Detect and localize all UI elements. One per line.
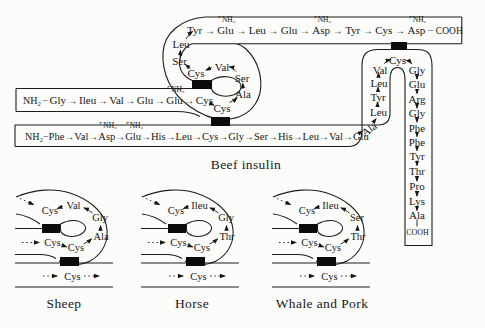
arrow-glyph: → xyxy=(205,24,215,37)
arrow-glyph: → xyxy=(88,130,98,143)
bond-glyph: − xyxy=(428,24,434,37)
residue-label: Ileu xyxy=(79,94,96,107)
residue-label: Gly xyxy=(409,64,426,76)
arrow-glyph: → xyxy=(155,94,165,107)
residue-label: Cys xyxy=(196,94,213,107)
residue-label: Cys xyxy=(389,54,406,66)
residue-label: Cys xyxy=(194,242,210,254)
arrow-glyph: → xyxy=(395,24,405,37)
arrow-glyph: → xyxy=(98,94,108,107)
residue-label: Val xyxy=(67,200,81,212)
residue-label: Ileu xyxy=(322,200,338,212)
insulin-sequence-diagram: Tyr → ⌜NH₂Glu → Leu → Glu → ⌜NH₂Asp → Ty… xyxy=(0,0,485,328)
arrow-glyph: → xyxy=(68,94,78,107)
residue-label: Thr xyxy=(219,231,234,243)
residue-label: Gly xyxy=(92,212,108,224)
disulfide-bond-a20-b19 xyxy=(391,42,407,50)
residue-label: Cys xyxy=(325,242,341,254)
sheep-disulfide-a7-b7 xyxy=(60,257,79,266)
arrow-glyph: → xyxy=(236,24,246,37)
residue-label: Cys xyxy=(187,67,204,79)
residue-label: Glu xyxy=(137,94,154,107)
residue-label: Gly xyxy=(218,212,234,224)
residue-label: ⌜NH₂Glu xyxy=(166,94,183,107)
whale-pork-disulfide-a7-b7 xyxy=(317,257,336,266)
residue-label: Gly xyxy=(50,94,67,107)
arrow-glyph: → xyxy=(141,130,151,143)
residue-label: Cys xyxy=(213,102,230,114)
residue-label: Cys xyxy=(301,237,317,249)
arrow-glyph: → xyxy=(333,24,343,37)
arrow-glyph: → xyxy=(300,24,310,37)
residue-label: Cys xyxy=(321,271,337,283)
arrow-glyph: → xyxy=(268,24,278,37)
residue-label: Gly xyxy=(228,130,244,143)
arrow-glyph: → xyxy=(319,130,329,143)
residue-label: Val xyxy=(373,64,388,76)
residue-label: Leu xyxy=(176,130,192,143)
residue-label: Ileu xyxy=(191,200,207,212)
amide-group-label: ⌜NH₂ xyxy=(126,122,143,130)
residue-label: Val xyxy=(329,130,343,143)
arrow-glyph: → xyxy=(218,130,228,143)
disulfide-bond-a7-b7 xyxy=(211,117,230,126)
residue-label: Arg xyxy=(409,93,426,105)
horse-caption: Horse xyxy=(152,296,232,312)
residue-label: Val xyxy=(109,94,124,107)
residue-label: Ala xyxy=(409,209,425,221)
b-chain-row: NH₂ − Phe → Val → ⌜NH₂Asp → ⌜NH₂Glu → Hi… xyxy=(25,130,357,143)
residue-label: Ser xyxy=(172,55,187,67)
residue-label: Ser xyxy=(254,130,268,143)
residue-label: His xyxy=(151,130,166,143)
arrow-glyph: → xyxy=(166,130,176,143)
residue-label: Tyr xyxy=(409,150,424,162)
residue-label: Cys xyxy=(42,205,58,217)
residue-label: ⌜NH₂Asp xyxy=(407,24,425,37)
bond-glyph: − xyxy=(42,94,48,107)
residue-label: Cys xyxy=(202,130,218,143)
residue-label: Glu xyxy=(281,24,298,37)
arrow-glyph: → xyxy=(64,130,74,143)
c-terminus-label: COOH xyxy=(406,227,429,239)
disulfide-bond-a6-a11 xyxy=(192,80,212,89)
n-terminus-label: NH₂ xyxy=(23,94,41,107)
residue-label: Cys xyxy=(168,205,184,217)
arrow-glyph: → xyxy=(115,130,125,143)
amide-group-label: ⌜NH₂ xyxy=(167,86,184,94)
sheep-caption: Sheep xyxy=(24,296,104,312)
sheep-disulfide-a6-a11 xyxy=(42,224,60,233)
residue-label: Ser xyxy=(235,72,250,84)
arrow-glyph: → xyxy=(343,130,353,143)
amide-group-label: ⌜NH₂ xyxy=(314,16,331,24)
residue-label: Cys xyxy=(190,271,206,283)
arrow-glyph: → xyxy=(293,130,303,143)
residue-label: Phe xyxy=(49,130,65,143)
residue-label: Thr xyxy=(409,165,425,177)
a-chain-top-row: Tyr → ⌜NH₂Glu → Leu → Glu → ⌜NH₂Asp → Ty… xyxy=(187,24,463,38)
residue-label: Glu xyxy=(409,78,426,90)
residue-label: Leu xyxy=(370,77,387,89)
residue-label: Tyr xyxy=(187,24,202,37)
residue-label: Tyr xyxy=(345,24,360,37)
residue-label: Thr xyxy=(350,231,365,243)
residue-label: Lys xyxy=(409,195,425,207)
beef-insulin-caption: Beef insulin xyxy=(186,157,306,173)
residue-label: ⌜NH₂Glu xyxy=(125,130,141,143)
arrow-glyph: → xyxy=(244,130,254,143)
amide-group-label: ⌜NH₂ xyxy=(409,16,426,24)
residue-label: Cys xyxy=(44,237,60,249)
amide-group-label: ⌜NH₂ xyxy=(218,16,235,24)
residue-label: Cys xyxy=(299,205,315,217)
c-terminus-label: COOH xyxy=(436,25,463,38)
residue-label: ⌜NH₂Asp xyxy=(98,130,115,143)
residue-label: His xyxy=(278,130,293,143)
residue-label: Leu xyxy=(172,38,189,50)
arrow-glyph: → xyxy=(363,24,373,37)
residue-label: Val xyxy=(74,130,88,143)
residue-label: Tyr xyxy=(370,91,385,103)
residue-label: Leu xyxy=(249,24,266,37)
whale-pork-caption: Whale and Pork xyxy=(252,296,392,312)
residue-label: Leu xyxy=(370,106,387,118)
amide-group-label: ⌜NH₂ xyxy=(99,122,116,130)
residue-label: ⌜NH₂Asp xyxy=(312,24,330,37)
